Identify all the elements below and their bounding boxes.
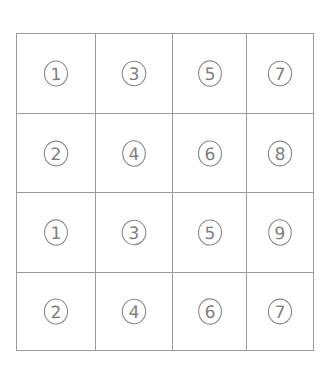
circled-number: 5: [194, 216, 224, 249]
circled-number: 1: [40, 56, 71, 90]
circled-number: 2: [41, 136, 71, 169]
cell-number-label: 4: [118, 136, 149, 170]
grid-row: 1 3 5: [17, 193, 314, 273]
cell-number-label: 3: [118, 215, 149, 249]
circled-number: 9: [264, 215, 295, 249]
grid-cell-r2c1[interactable]: 3: [96, 193, 173, 273]
grid-cell-r2c0[interactable]: 1: [17, 193, 96, 273]
circled-number: 1: [41, 216, 72, 250]
circled-number: 3: [119, 57, 150, 91]
circled-number: 7: [264, 294, 295, 328]
cell-number-label: 4: [119, 295, 150, 329]
grid-row: 2 4 6: [17, 114, 314, 193]
grid-cell-r3c0[interactable]: 2: [17, 273, 96, 351]
grid-cell-r3c1[interactable]: 4: [96, 273, 173, 351]
circled-number: 4: [119, 295, 150, 329]
grid-cell-r2c3[interactable]: 9: [247, 193, 314, 273]
circled-number: 2: [40, 294, 71, 328]
grid-cell-r0c3[interactable]: 7: [247, 34, 314, 114]
cell-number-label: 2: [41, 136, 71, 169]
grid-cell-r1c3[interactable]: 8: [247, 114, 314, 193]
cell-number-label: 8: [265, 136, 296, 170]
grid-cell-r0c2[interactable]: 5: [173, 34, 247, 114]
cell-number-label: 9: [264, 215, 295, 249]
grid-cell-r3c3[interactable]: 7: [247, 273, 314, 351]
cell-number-label: 6: [194, 295, 225, 329]
number-grid: 1 3 5: [16, 33, 314, 351]
circled-number: 6: [194, 136, 225, 170]
cell-number-label: 2: [40, 294, 71, 328]
grid-cell-r1c2[interactable]: 6: [173, 114, 247, 193]
grid-cell-r1c0[interactable]: 2: [17, 114, 96, 193]
grid-cell-r2c2[interactable]: 5: [173, 193, 247, 273]
grid-cell-r0c1[interactable]: 3: [96, 34, 173, 114]
grid-cell-r3c2[interactable]: 6: [173, 273, 247, 351]
grid-cell-r1c1[interactable]: 4: [96, 114, 173, 193]
circled-number: 6: [194, 295, 225, 329]
circled-number: 3: [118, 215, 149, 249]
cell-number-label: 6: [194, 136, 225, 170]
scanned-sheet: 1 3 5: [0, 0, 331, 367]
grid-row: 1 3 5: [17, 34, 314, 114]
cell-number-label: 7: [264, 294, 295, 328]
cell-number-label: 5: [194, 216, 224, 249]
cell-number-label: 1: [41, 216, 72, 250]
circled-number: 7: [264, 56, 295, 90]
cell-number-label: 7: [264, 56, 295, 90]
grid-cell-r0c0[interactable]: 1: [17, 34, 96, 114]
grid-row: 2 4 6: [17, 273, 314, 351]
circled-number: 4: [118, 136, 149, 170]
cell-number-label: 1: [40, 56, 71, 90]
circled-number: 5: [194, 57, 225, 91]
circled-number: 8: [265, 136, 296, 170]
cell-number-label: 5: [194, 57, 225, 91]
cell-number-label: 3: [119, 57, 150, 91]
